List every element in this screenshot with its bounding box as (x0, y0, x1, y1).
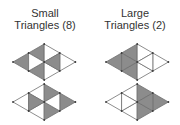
triangle-diagram (0, 0, 180, 125)
rhombus-figure-small-1 (12, 43, 76, 81)
small-triangle (13, 93, 29, 111)
rhombus-figure-large-1 (105, 43, 169, 81)
rhombus-figure-small-2 (12, 83, 76, 121)
small-triangle (153, 53, 169, 71)
small-triangle (60, 53, 76, 71)
small-triangle (13, 53, 29, 71)
rhombus-figure-large-2 (105, 83, 169, 121)
small-triangle (153, 93, 169, 111)
small-triangle (106, 93, 122, 111)
small-triangle (106, 53, 122, 71)
small-triangle (60, 93, 76, 111)
